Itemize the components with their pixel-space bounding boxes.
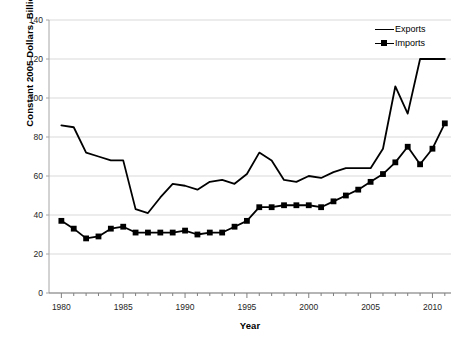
legend-line-icon (375, 29, 394, 30)
x-tick-1980: 1980 (41, 302, 81, 312)
y-tick-20: 20 (15, 249, 43, 259)
y-tick-60: 60 (15, 171, 43, 181)
y-tick-120: 120 (15, 54, 43, 64)
x-tick-2010: 2010 (412, 302, 452, 312)
x-tick-2005: 2005 (351, 302, 391, 312)
x-tick-1990: 1990 (165, 302, 205, 312)
y-tick-80: 80 (15, 132, 43, 142)
legend-line-square-icon (375, 40, 394, 47)
x-tick-1995: 1995 (227, 302, 267, 312)
x-tick-2000: 2000 (289, 302, 329, 312)
chart-legend: Exports Imports (375, 22, 426, 50)
y-tick-100: 100 (15, 93, 43, 103)
x-tick-1985: 1985 (103, 302, 143, 312)
y-tick-40: 40 (15, 210, 43, 220)
legend-item-exports: Exports (375, 22, 426, 36)
chart-figure: Constant 2005 Dollars, Billions Year 020… (0, 0, 467, 340)
y-tick-140: 140 (15, 15, 43, 25)
legend-item-imports: Imports (375, 36, 426, 50)
legend-label-imports: Imports (395, 38, 425, 48)
plot-area (0, 0, 467, 340)
y-tick-0: 0 (15, 288, 43, 298)
legend-label-exports: Exports (395, 24, 426, 34)
